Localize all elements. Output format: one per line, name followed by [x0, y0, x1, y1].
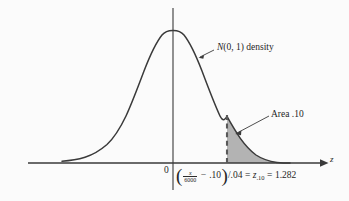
density-label-params: (0, 1): [223, 42, 244, 52]
normal-distribution-figure: N(0, 1) density Area .10 0 z ( x 6000 − …: [0, 0, 349, 201]
density-curve-label: N(0, 1) density: [217, 43, 274, 53]
density-label-arrowhead: [199, 55, 205, 59]
density-label-word: density: [244, 42, 274, 52]
area-annotation-label: Area .10: [271, 110, 304, 120]
formula-minus-sign: −: [198, 171, 208, 181]
formula-result-value: 1.282: [275, 171, 296, 181]
formula-equals-first: =: [242, 171, 252, 181]
origin-tick-label: 0: [164, 166, 169, 176]
formula-close-paren: ): [222, 166, 228, 185]
standardization-formula: ( x 6000 − .10 ) / .04 = z.10 = 1.282: [176, 167, 296, 185]
formula-fraction: x 6000: [183, 170, 197, 184]
formula-equals-second: =: [265, 171, 275, 181]
formula-fraction-denominator: 6000: [183, 177, 197, 183]
figure-canvas: [0, 0, 349, 201]
formula-z-subscript: .10: [256, 175, 264, 182]
formula-open-paren: (: [176, 166, 182, 185]
x-axis-arrowhead: [320, 159, 329, 167]
area-label-leader-line: [237, 116, 269, 133]
density-label-leader-line: [200, 50, 214, 57]
formula-divisor: .04: [231, 171, 243, 181]
x-axis-label-z: z: [330, 155, 334, 164]
formula-subtrahend: .10: [209, 171, 222, 181]
